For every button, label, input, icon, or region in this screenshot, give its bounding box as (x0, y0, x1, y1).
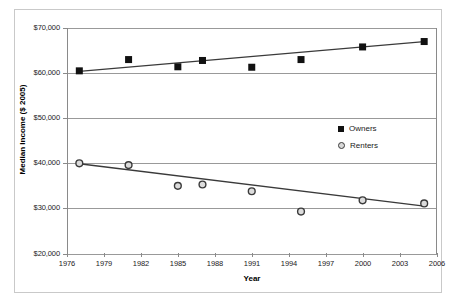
legend-label-owners: Owners (349, 124, 377, 133)
x-tick-label: 1991 (232, 259, 272, 268)
x-tick-mark (289, 253, 290, 257)
x-tick-mark (326, 253, 327, 257)
y-tick-label: $30,000 (14, 203, 60, 212)
gridline (67, 163, 437, 164)
x-tick-mark (437, 253, 438, 257)
x-tick-label: 2000 (343, 259, 383, 268)
legend-item-owners: Owners (338, 122, 377, 135)
x-tick-mark (141, 253, 142, 257)
x-tick-mark (104, 253, 105, 257)
chart-legend: Owners Renters (338, 122, 404, 154)
x-tick-mark (178, 253, 179, 257)
y-tick-label: $70,000 (14, 23, 60, 32)
x-tick-mark (215, 253, 216, 257)
x-tick-label: 1985 (158, 259, 198, 268)
gridline (67, 73, 437, 74)
y-axis-line (67, 28, 68, 254)
x-tick-label: 1976 (47, 259, 87, 268)
x-tick-label: 1994 (269, 259, 309, 268)
gridline (67, 208, 437, 209)
x-axis-title: Year (67, 274, 437, 283)
x-tick-mark (252, 253, 253, 257)
gridline (67, 28, 437, 29)
x-tick-label: 2006 (417, 259, 457, 268)
open-circle-icon (338, 142, 345, 149)
legend-item-renters: Renters (338, 139, 378, 152)
x-tick-label: 1979 (84, 259, 124, 268)
plot-right-edge (436, 28, 437, 254)
x-tick-mark (400, 253, 401, 257)
y-tick-label: $20,000 (14, 249, 60, 258)
x-tick-label: 1982 (121, 259, 161, 268)
chart-figure: $20,000$30,000$40,000$50,000$60,000$70,0… (0, 0, 457, 307)
x-tick-label: 1988 (195, 259, 235, 268)
x-tick-label: 1997 (306, 259, 346, 268)
legend-label-renters: Renters (350, 141, 378, 150)
x-tick-label: 2003 (380, 259, 420, 268)
y-axis-title: Median Income ($ 2005) (18, 60, 27, 200)
x-tick-mark (363, 253, 364, 257)
gridline (67, 118, 437, 119)
filled-square-icon (338, 126, 344, 132)
